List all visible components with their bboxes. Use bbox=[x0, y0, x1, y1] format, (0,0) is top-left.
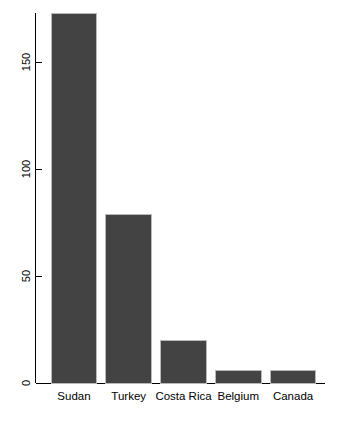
y-tick-label-0: 0 bbox=[20, 380, 32, 386]
bar-turkey[interactable] bbox=[106, 214, 152, 383]
x-tick-label-costa-rica: Costa Rica bbox=[155, 390, 212, 402]
x-tick-label-sudan: Sudan bbox=[57, 390, 90, 402]
x-tick-label-turkey: Turkey bbox=[111, 390, 146, 402]
y-tick-label-150: 150 bbox=[20, 53, 32, 71]
y-tick-label-50: 50 bbox=[20, 270, 32, 282]
bar-chart: 0 50 100 150 SudanTurkeyCosta RicaBelgiu… bbox=[0, 0, 341, 421]
y-tick-label-100: 100 bbox=[20, 160, 32, 178]
bar-canada[interactable] bbox=[270, 371, 316, 384]
x-tick-label-canada: Canada bbox=[273, 390, 314, 402]
x-tick-label-belgium: Belgium bbox=[217, 390, 259, 402]
bar-costa-rica[interactable] bbox=[161, 341, 207, 384]
plot-area: 0 50 100 150 SudanTurkeyCosta RicaBelgiu… bbox=[0, 0, 341, 421]
bar-belgium[interactable] bbox=[215, 371, 261, 384]
bar-sudan[interactable] bbox=[51, 13, 97, 383]
